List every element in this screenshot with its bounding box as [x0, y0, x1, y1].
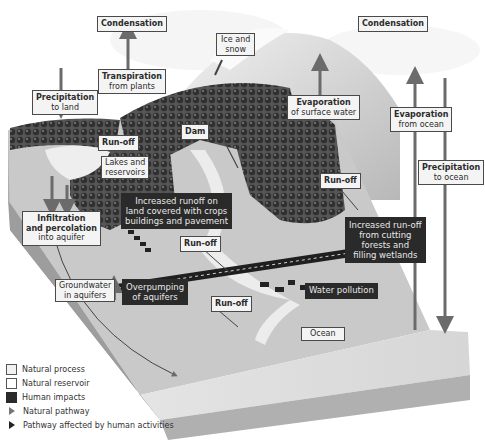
human-impacts-swatch-icon — [6, 392, 17, 403]
label-runoff-bottom: Run-off — [211, 296, 252, 312]
natural-process-swatch-icon — [6, 364, 17, 375]
legend-item-natural-process: Natural process — [6, 362, 174, 376]
water-cycle-diagram: Condensation Condensation Ice and snow T… — [0, 0, 485, 443]
legend-item-natural-reservoir: Natural reservoir — [6, 376, 174, 390]
label-precipitation-to-land: Precipitation to land — [32, 90, 98, 115]
label-overpumping-of-aquifers: Overpumping of aquifers — [122, 279, 188, 305]
natural-reservoir-swatch-icon — [6, 378, 17, 389]
label-evaporation-from-ocean: Evaporation from ocean — [390, 107, 452, 132]
label-precipitation-to-ocean: Precipitation to ocean — [418, 160, 484, 185]
label-condensation-right: Condensation — [358, 16, 428, 32]
natural-pathway-arrow-icon — [9, 407, 15, 415]
legend-item-natural-pathway: Natural pathway — [6, 404, 174, 418]
label-ice-and-snow: Ice and snow — [216, 33, 255, 56]
label-transpiration: Transpiration from plants — [98, 69, 166, 94]
label-ocean: Ocean — [301, 327, 345, 341]
legend-item-human-pathway: Pathway affected by human activities — [6, 418, 174, 432]
label-infiltration-percolation: Infiltration and percolation into aquife… — [22, 211, 101, 246]
human-pathway-arrow-icon — [9, 421, 15, 429]
label-condensation-left: Condensation — [97, 16, 167, 32]
legend-item-human-impacts: Human impacts — [6, 390, 174, 404]
label-dam: Dam — [181, 124, 209, 140]
label-evaporation-surface-water: Evaporation of surface water — [287, 95, 360, 120]
label-runoff-mid: Run-off — [180, 236, 221, 252]
label-increased-runoff-forests: Increased run-off from cutting forests a… — [345, 217, 426, 263]
label-lakes-and-reservoirs: Lakes and reservoirs — [101, 156, 149, 179]
label-increased-runoff-land: Increased runoff on land covered with cr… — [121, 193, 232, 229]
label-water-pollution: Water pollution — [305, 283, 378, 299]
label-runoff-top: Run-off — [98, 135, 139, 151]
legend: Natural process Natural reservoir Human … — [6, 362, 174, 432]
label-runoff-right: Run-off — [320, 173, 361, 189]
label-groundwater-in-aquifers: Groundwater in aquifers — [55, 279, 115, 302]
